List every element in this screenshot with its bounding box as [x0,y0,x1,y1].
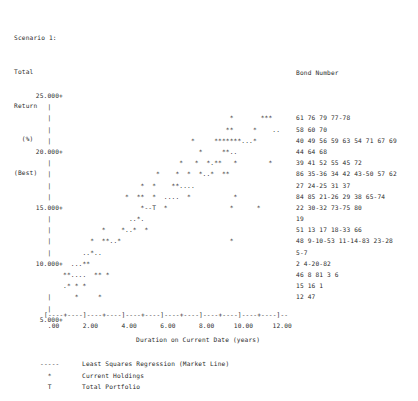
bond-number-row: 86 35-36 34 42 43-50 57 62 [290,168,418,179]
plot-row-markers: ** * .. [63,124,290,135]
plot-row-markers: ...** [63,258,290,269]
y-axis-label: | [0,291,63,302]
plot-row: | [0,101,418,112]
plot-row-markers: * **..* * [63,235,290,246]
caption-line-1: Scenario 1: [14,32,57,43]
y-axis-label: 25.000+ [0,90,63,101]
caption-line-2: Total [14,66,57,77]
plot-row: **.... ** * 46 8 81 3 6 [0,269,418,280]
total-portfolio-marker-icon: T [40,381,82,393]
plot-row: | * * * *..* ** 86 35-36 34 42 43-50 57 … [0,168,418,179]
y-axis-label: | [0,247,63,258]
y-axis-label: 10.000+ [0,258,63,269]
y-axis-label: | [0,235,63,246]
plot-row: 15.000+ *--T * * * 22 30-32 73-75 80 [0,202,418,213]
y-axis-label: | [0,135,63,146]
bond-number-row: 22 30-32 73-75 80 [290,202,418,213]
plot-row-markers: * ** * .... * * [63,191,290,202]
plot-row-markers [63,101,290,112]
y-axis-label: | [0,101,63,112]
plot-row-markers: * * [63,291,290,302]
plot-row-markers: * *..* * [63,224,290,235]
legend-item-total-portfolio: T Total Portfolio [40,381,229,393]
plot-row: .* * * 15 16 1 [0,280,418,291]
chart-legend: ----- Least Squares Regression (Market L… [40,358,229,393]
bond-number-row: 2 4-20-82 [290,258,418,269]
y-axis-label: | [0,112,63,123]
legend-label-current-holdings: Current Holdings [82,370,144,382]
y-axis-label: | [0,224,63,235]
legend-item-regression: ----- Least Squares Regression (Market L… [40,358,229,370]
plot-row: | * *******...* 40 49 56 59 63 54 71 67 … [0,135,418,146]
plot-row: | ** * .. 58 60 70 [0,124,418,135]
bond-number-row: 84 85 21-26 29 38 65-74 [290,191,418,202]
y-axis-label [0,280,63,291]
y-axis-label: | [0,213,63,224]
plot-row: 10.000+ ...** 2 4-20-82 [0,258,418,269]
plot-row: | * **..* * 48 9-10-53 11-14-83 23-28 [0,235,418,246]
bond-number-row: 61 76 79 77-78 [290,112,418,123]
plot-row-markers: **.... ** * [63,269,290,280]
x-axis-title: Duration on Current Date (years) [136,336,260,343]
bond-number-row: 58 60 70 [290,124,418,135]
legend-label-total-portfolio: Total Portfolio [82,381,140,393]
y-axis-label: | [0,168,63,179]
bond-number-row: 15 16 1 [290,280,418,291]
y-axis-label: 15.000+ [0,202,63,213]
bond-number-row: 46 8 81 3 6 [290,269,418,280]
plot-row: | * ** * .... * * 84 85 21-26 29 38 65-7… [0,191,418,202]
y-axis-label: | [0,180,63,191]
bond-number-row: 12 47 [290,291,418,302]
regression-line-icon: ----- [40,358,82,370]
y-axis-label: | [0,191,63,202]
plot-row-markers: * *** [63,112,290,123]
bond-number-row: 39 41 52 55 45 72 [290,157,418,168]
plot-row-markers: * * * *..* ** [63,168,290,179]
x-axis-tick-labels: .00 2.00 4.00 6.00 8.00 10.00 12.00 [40,322,292,329]
plot-row: | ..*. 19 [0,213,418,224]
plot-row: | * * *.** * * 39 41 52 55 45 72 [0,157,418,168]
plot-row-markers [63,90,290,101]
plot-row: | * * **.... 27 24-25 31 37 [0,180,418,191]
plot-row: | * * 12 47 [0,291,418,302]
plot-row: | * *** 61 76 79 77-78 [0,112,418,123]
x-axis-line: [----+----]----+----]----+----]----+----… [44,311,288,318]
y-axis-label: | [0,124,63,135]
asterisk-marker-icon: * [40,370,82,382]
plot-row: 20.000+ * **.. 44 64 68 [0,146,418,157]
plot-row-markers: *--T * * * [63,202,290,213]
plot-row-markers: ..*.. [63,247,290,258]
y-axis-label: | [0,157,63,168]
bond-number-row: 27 24-25 31 37 [290,180,418,191]
plot-row-markers: * * *.** * * [63,157,290,168]
plot-row: | ..*.. 5-7 [0,247,418,258]
bond-number-row: 19 [290,213,418,224]
legend-item-current-holdings: * Current Holdings [40,370,229,382]
plot-row-markers: ..*. [63,213,290,224]
bond-number-row: 51 13 17 18-33 66 [290,224,418,235]
bond-number-row: 48 9-10-53 11-14-83 23-28 [290,235,418,246]
plot-row-markers: * **.. [63,146,290,157]
plot-row: | * *..* * 51 13 17 18-33 66 [0,224,418,235]
bond-number-row: 44 64 68 [290,146,418,157]
plot-row-markers: * *******...* [63,135,290,146]
plot-row-markers: * * **.... [63,180,290,191]
plot-row-markers: .* * * [63,280,290,291]
y-axis-label: 20.000+ [0,146,63,157]
scatter-plot: 25.000+ | | * *** [0,90,418,325]
bond-number-row: 5-7 [290,247,418,258]
bond-number-row: 40 49 56 59 63 54 71 67 69 [290,135,418,146]
legend-label-regression: Least Squares Regression (Market Line) [82,358,229,370]
plot-row: 25.000+ [0,90,418,101]
y-axis-label [0,269,63,280]
bond-number-column-header: Bond Number [296,69,339,76]
